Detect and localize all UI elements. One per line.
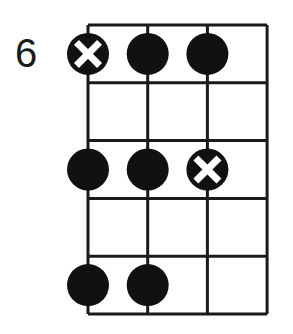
- note-dot: [67, 264, 109, 306]
- note-dot: [127, 33, 169, 75]
- note-dot: [67, 149, 109, 191]
- note-dot: [186, 33, 228, 75]
- fretboard-diagram: [0, 0, 293, 334]
- note-dot: [127, 149, 169, 191]
- note-dot: [127, 264, 169, 306]
